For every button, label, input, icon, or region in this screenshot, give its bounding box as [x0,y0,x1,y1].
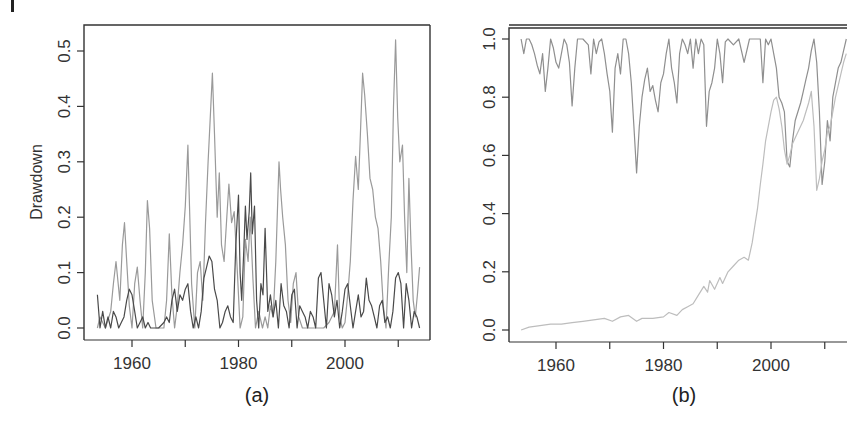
x-tick-label: 2000 [752,356,790,375]
y-tick-label: 0.3 [55,150,74,174]
panel-b-series [521,39,846,330]
lower-rising-series-line [521,54,846,330]
panel-gap [430,0,509,360]
y-tick-label: 0.4 [55,95,74,119]
x-tick-label: 1980 [220,354,258,373]
x-tick-label: 1980 [645,356,683,375]
panel-a-series [97,40,419,328]
y-tick-label: 0.0 [55,316,74,340]
panel-b-ratio-chart: 196019802000 0.00.20.40.60.81.0 (b) [430,0,847,406]
y-tick-label: 0.0 [480,318,499,342]
y-tick-label: 0.4 [480,202,499,226]
x-tick-label: 2000 [326,354,364,373]
y-tick-label: 0.8 [480,85,499,109]
y-tick-label: 1.0 [480,27,499,51]
x-tick-label: 1960 [113,354,151,373]
upper-ratio-series-line [521,39,846,185]
panel-a-x-ticks: 196019802000 [113,340,398,373]
panel-a-y-axis-title: Drawdown [28,144,45,220]
figure: 196019802000 0.00.10.20.30.40.5 Drawdown… [0,0,847,428]
y-tick-label: 0.5 [55,39,74,63]
x-tick-label: 1960 [537,356,575,375]
y-tick-label: 0.2 [55,205,74,229]
y-tick-label: 0.6 [480,144,499,168]
panel-a-caption: (a) [245,384,269,406]
y-tick-label: 0.2 [480,260,499,284]
panel-b-caption: (b) [672,384,696,406]
panel-a-y-ticks: 0.00.10.20.30.40.5 [55,39,84,340]
y-tick-label: 0.1 [55,261,74,285]
panel-b-x-ticks: 196019802000 [537,342,825,375]
light-gray-series-line [97,40,419,328]
